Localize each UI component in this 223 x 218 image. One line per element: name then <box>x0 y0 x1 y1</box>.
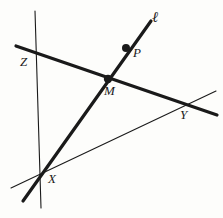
geometry-figure: ℓ P Z M Y X <box>0 0 223 218</box>
geometry-canvas <box>0 0 223 218</box>
point-p-label: P <box>133 46 141 59</box>
point-m-dot <box>104 75 112 83</box>
line-l-label: ℓ <box>152 10 158 25</box>
point-p-dot <box>122 44 130 52</box>
point-z-label: Z <box>20 55 27 68</box>
point-y-label: Y <box>180 108 187 121</box>
thick-line-ZY <box>16 46 217 115</box>
point-x-label: X <box>48 172 56 185</box>
thick-line-l <box>23 21 151 201</box>
point-m-label: M <box>104 84 115 97</box>
